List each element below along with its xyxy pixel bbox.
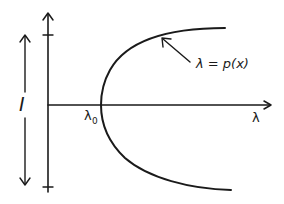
- horizontal-axis: [48, 101, 271, 109]
- lambda-axis-label: λ: [252, 110, 260, 125]
- curve-label: λ = p(x): [195, 56, 249, 71]
- vertical-axis: [43, 13, 53, 192]
- curve-p: [101, 28, 231, 190]
- interval-label: I: [19, 93, 25, 115]
- svg-text:0: 0: [92, 116, 98, 126]
- curve-pointer-arrow: [162, 38, 190, 62]
- diagram-canvas: I λ λ 0 λ = p(x): [0, 0, 284, 204]
- lambda-zero-label: λ 0: [84, 108, 98, 126]
- svg-text:λ: λ: [84, 108, 92, 123]
